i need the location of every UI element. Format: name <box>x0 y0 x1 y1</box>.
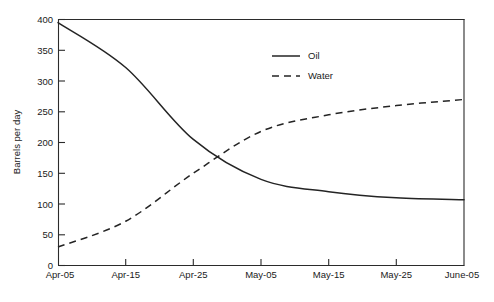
line-chart: 400 350 300 250 200 150 100 50 0 Barrels… <box>0 0 494 302</box>
x-tick-label: Apr-05 <box>46 269 75 280</box>
y-tick-label: 150 <box>37 168 53 179</box>
series-line-oil <box>58 23 464 200</box>
y-tick-label: 400 <box>37 14 53 25</box>
y-axis-ticks <box>59 20 66 266</box>
y-tick-label: 50 <box>42 229 53 240</box>
legend-label-water: Water <box>308 70 333 81</box>
x-tick-label: May-25 <box>380 269 412 280</box>
x-tick-label: May-05 <box>245 269 277 280</box>
x-axis-labels: Apr-05 Apr-15 Apr-25 May-05 May-15 May-2… <box>46 269 479 280</box>
x-tick-label: May-15 <box>313 269 345 280</box>
plot-frame <box>58 19 465 266</box>
y-tick-label: 200 <box>37 137 53 148</box>
series-line-water <box>58 99 464 247</box>
legend-label-oil: Oil <box>308 50 320 61</box>
x-tick-label: Apr-25 <box>179 269 208 280</box>
y-axis-labels: 400 350 300 250 200 150 100 50 0 <box>37 14 53 271</box>
x-tick-label: June-05 <box>445 269 479 280</box>
y-tick-label: 350 <box>37 45 53 56</box>
y-tick-label: 100 <box>37 199 53 210</box>
y-axis-title: Barrels per day <box>11 110 22 175</box>
chart-legend: Oil Water <box>272 50 333 81</box>
x-tick-label: Apr-15 <box>111 269 140 280</box>
y-tick-label: 250 <box>37 106 53 117</box>
x-axis-ticks <box>126 259 397 266</box>
y-tick-label: 300 <box>37 76 53 87</box>
chart-container: 400 350 300 250 200 150 100 50 0 Barrels… <box>0 0 494 302</box>
